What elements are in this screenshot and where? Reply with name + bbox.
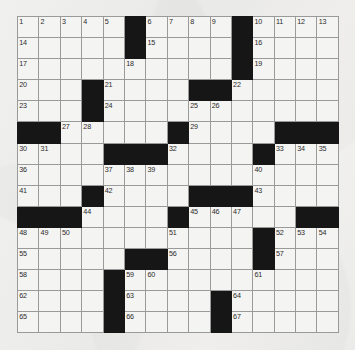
- crossword-cell[interactable]: [210, 122, 231, 143]
- crossword-cell[interactable]: [231, 122, 252, 143]
- crossword-cell[interactable]: [274, 270, 295, 291]
- crossword-cell[interactable]: [146, 80, 167, 101]
- crossword-cell[interactable]: [189, 143, 210, 164]
- crossword-cell[interactable]: 29: [189, 122, 210, 143]
- crossword-cell[interactable]: 64: [231, 291, 252, 312]
- crossword-cell[interactable]: [124, 227, 145, 248]
- crossword-cell[interactable]: [146, 312, 167, 333]
- crossword-cell[interactable]: [167, 101, 188, 122]
- crossword-cell[interactable]: [167, 164, 188, 185]
- crossword-cell[interactable]: [124, 101, 145, 122]
- crossword-cell[interactable]: [82, 291, 103, 312]
- crossword-cell[interactable]: [210, 164, 231, 185]
- crossword-cell[interactable]: [103, 249, 124, 270]
- crossword-cell[interactable]: [146, 206, 167, 227]
- crossword-cell[interactable]: [146, 185, 167, 206]
- crossword-cell[interactable]: 11: [274, 17, 295, 38]
- crossword-cell[interactable]: [210, 249, 231, 270]
- crossword-cell[interactable]: [124, 185, 145, 206]
- crossword-cell[interactable]: 2: [39, 17, 60, 38]
- crossword-cell[interactable]: [189, 249, 210, 270]
- crossword-cell[interactable]: 52: [274, 227, 295, 248]
- crossword-cell[interactable]: [317, 59, 338, 80]
- crossword-cell[interactable]: [39, 59, 60, 80]
- crossword-cell[interactable]: [274, 59, 295, 80]
- crossword-cell[interactable]: [231, 101, 252, 122]
- crossword-cell[interactable]: [317, 164, 338, 185]
- crossword-cell[interactable]: 10: [253, 17, 274, 38]
- crossword-cell[interactable]: [60, 270, 81, 291]
- crossword-cell[interactable]: [124, 122, 145, 143]
- crossword-cell[interactable]: 23: [18, 101, 39, 122]
- crossword-cell[interactable]: 39: [146, 164, 167, 185]
- crossword-cell[interactable]: [296, 312, 317, 333]
- crossword-cell[interactable]: [82, 59, 103, 80]
- crossword-cell[interactable]: [253, 312, 274, 333]
- crossword-cell[interactable]: [296, 80, 317, 101]
- crossword-cell[interactable]: 18: [124, 59, 145, 80]
- crossword-cell[interactable]: [189, 164, 210, 185]
- crossword-cell[interactable]: 60: [146, 270, 167, 291]
- crossword-cell[interactable]: [60, 143, 81, 164]
- crossword-cell[interactable]: 9: [210, 17, 231, 38]
- crossword-cell[interactable]: 20: [18, 80, 39, 101]
- crossword-cell[interactable]: 36: [18, 164, 39, 185]
- crossword-cell[interactable]: [210, 59, 231, 80]
- crossword-cell[interactable]: [189, 270, 210, 291]
- crossword-cell[interactable]: [274, 164, 295, 185]
- crossword-cell[interactable]: [124, 206, 145, 227]
- crossword-cell[interactable]: [189, 312, 210, 333]
- crossword-cell[interactable]: 45: [189, 206, 210, 227]
- crossword-cell[interactable]: [60, 312, 81, 333]
- crossword-cell[interactable]: [60, 249, 81, 270]
- crossword-cell[interactable]: 26: [210, 101, 231, 122]
- crossword-cell[interactable]: [124, 80, 145, 101]
- crossword-cell[interactable]: 15: [146, 38, 167, 59]
- crossword-cell[interactable]: 30: [18, 143, 39, 164]
- crossword-cell[interactable]: [103, 59, 124, 80]
- crossword-cell[interactable]: [253, 101, 274, 122]
- crossword-cell[interactable]: 25: [189, 101, 210, 122]
- crossword-cell[interactable]: 61: [253, 270, 274, 291]
- crossword-cell[interactable]: [189, 227, 210, 248]
- crossword-cell[interactable]: [60, 59, 81, 80]
- crossword-cell[interactable]: 14: [18, 38, 39, 59]
- crossword-cell[interactable]: 28: [82, 122, 103, 143]
- crossword-cell[interactable]: 19: [253, 59, 274, 80]
- crossword-cell[interactable]: 1: [18, 17, 39, 38]
- crossword-cell[interactable]: [317, 291, 338, 312]
- crossword-cell[interactable]: [167, 38, 188, 59]
- crossword-cell[interactable]: 59: [124, 270, 145, 291]
- crossword-cell[interactable]: [296, 164, 317, 185]
- crossword-cell[interactable]: 57: [274, 249, 295, 270]
- crossword-cell[interactable]: 13: [317, 17, 338, 38]
- crossword-cell[interactable]: [39, 38, 60, 59]
- crossword-cell[interactable]: 34: [296, 143, 317, 164]
- crossword-cell[interactable]: 22: [231, 80, 252, 101]
- crossword-cell[interactable]: [82, 312, 103, 333]
- crossword-cell[interactable]: 51: [167, 227, 188, 248]
- crossword-grid[interactable]: 1234567891011121314151617181920212223242…: [17, 16, 339, 333]
- crossword-cell[interactable]: [274, 38, 295, 59]
- crossword-cell[interactable]: [210, 227, 231, 248]
- crossword-cell[interactable]: [146, 122, 167, 143]
- crossword-cell[interactable]: [103, 206, 124, 227]
- crossword-cell[interactable]: [39, 249, 60, 270]
- crossword-cell[interactable]: [274, 80, 295, 101]
- crossword-cell[interactable]: [167, 291, 188, 312]
- crossword-cell[interactable]: 50: [60, 227, 81, 248]
- crossword-cell[interactable]: [296, 59, 317, 80]
- crossword-cell[interactable]: [253, 122, 274, 143]
- crossword-cell[interactable]: [210, 143, 231, 164]
- crossword-cell[interactable]: 56: [167, 249, 188, 270]
- crossword-cell[interactable]: [82, 38, 103, 59]
- crossword-cell[interactable]: [274, 312, 295, 333]
- crossword-cell[interactable]: [231, 227, 252, 248]
- crossword-cell[interactable]: [60, 101, 81, 122]
- crossword-cell[interactable]: [274, 291, 295, 312]
- crossword-cell[interactable]: [146, 227, 167, 248]
- crossword-cell[interactable]: 8: [189, 17, 210, 38]
- crossword-cell[interactable]: 5: [103, 17, 124, 38]
- crossword-cell[interactable]: 48: [18, 227, 39, 248]
- crossword-cell[interactable]: [231, 249, 252, 270]
